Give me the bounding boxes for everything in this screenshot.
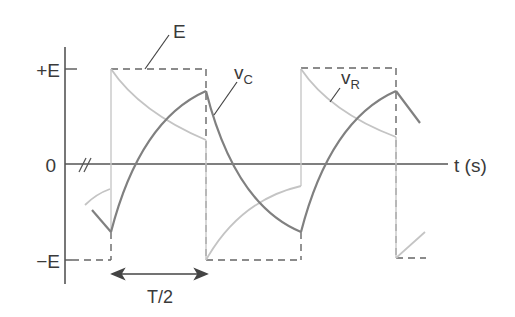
label-minus-e: −E <box>36 251 60 272</box>
axis-break-icon <box>79 158 91 172</box>
label-vr: vR <box>341 67 360 92</box>
vc-curve <box>92 91 420 232</box>
label-plus-e: +E <box>36 60 60 81</box>
label-source-e: E <box>173 21 186 42</box>
label-half-period: T/2 <box>147 287 173 307</box>
period-arrow <box>112 269 207 279</box>
label-zero: 0 <box>45 155 56 176</box>
rc-waveform-diagram: +E 0 −E t (s) E vC vR T/2 <box>0 0 515 317</box>
label-time-axis: t (s) <box>454 155 487 176</box>
